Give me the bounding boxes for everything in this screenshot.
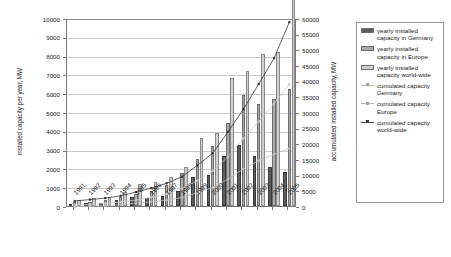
y-axis-left-tick-label: 4000: [18, 128, 60, 135]
line-marker: [227, 178, 229, 180]
line-marker: [242, 137, 244, 139]
y-axis-left-tick-label: 10000: [18, 16, 60, 23]
legend-item[interactable]: cumulated capacity Germany: [360, 82, 440, 97]
line-marker: [74, 204, 76, 206]
line-marker: [196, 164, 198, 166]
y-axis-right-tickmark: [296, 207, 299, 208]
plot-area: [66, 19, 296, 207]
x-axis-tickmark: [272, 207, 273, 210]
x-axis-tickmark: [180, 207, 181, 210]
y-axis-left-tickmark: [63, 113, 66, 114]
y-axis-right-tickmark: [296, 35, 299, 36]
line-marker: [74, 200, 76, 202]
line-marker: [227, 131, 229, 133]
x-axis-tickmark: [287, 207, 288, 210]
y-axis-left-tick-label: 8000: [18, 53, 60, 60]
chart-legend: yearly installed capacity in Germanyyear…: [356, 22, 444, 203]
y-axis-left-tick-label: 9000: [18, 34, 60, 41]
line-marker: [242, 168, 244, 170]
legend-item-label: cumulated capacity Germany: [377, 82, 440, 97]
legend-item-label: yearly installed capacity in Germany: [377, 27, 440, 42]
line-marker: [104, 205, 106, 207]
y-axis-left-tick-label: 7000: [18, 72, 60, 79]
line-series: [75, 22, 290, 201]
legend-item[interactable]: cumulated capacity world-wide: [360, 119, 440, 134]
y-axis-right-tickmark: [296, 176, 299, 177]
legend-line-icon: [361, 83, 374, 88]
x-axis-tickmark: [165, 207, 166, 210]
y-axis-right-tick-label: 50000: [302, 47, 319, 54]
legend-item[interactable]: yearly installed capacity in Germany: [360, 27, 440, 42]
line-marker: [196, 180, 198, 182]
y-axis-right-tickmark: [296, 113, 299, 114]
legend-item-label: yearly installed capacity in Europe: [377, 45, 440, 60]
x-axis-tickmark: [103, 207, 104, 210]
line-marker: [273, 153, 275, 155]
line-marker: [181, 197, 183, 199]
line-marker: [89, 199, 91, 201]
y-axis-right-tickmark: [296, 50, 299, 51]
y-axis-left-tick-label: 2000: [18, 166, 60, 173]
line-marker: [120, 201, 122, 203]
y-axis-left-tickmark: [63, 19, 66, 20]
line-marker: [212, 152, 214, 154]
line-marker: [120, 204, 122, 206]
legend-swatch-icon: [361, 46, 374, 51]
x-axis-tickmark: [119, 207, 120, 210]
y-axis-right-tickmark: [296, 82, 299, 83]
y-axis-right-tick-label: 55000: [302, 31, 319, 38]
line-marker: [166, 199, 168, 201]
y-axis-left-tickmark: [63, 207, 66, 208]
y-axis-left-tickmark: [63, 188, 66, 189]
y-axis-left-tickmark: [63, 94, 66, 95]
y-axis-right-tickmark: [296, 144, 299, 145]
y-axis-right-tick-label: 10000: [302, 172, 319, 179]
legend-item[interactable]: cumulated capacity Europe: [360, 100, 440, 115]
legend-line-icon: [361, 101, 374, 106]
y-axis-right-tick-label: 30000: [302, 110, 319, 117]
line-marker: [104, 197, 106, 199]
chart-figure: installed capacity per year, MW accumula…: [0, 0, 451, 257]
y-axis-right-tick-label: 15000: [302, 157, 319, 164]
line-series-group: [67, 19, 297, 207]
x-axis-tickmark: [195, 207, 196, 210]
line-marker: [273, 103, 275, 105]
y-axis-left-tickmark: [63, 169, 66, 170]
line-marker: [288, 148, 290, 150]
y-axis-left-tickmark: [63, 75, 66, 76]
y-axis-left-tick-label: 0: [18, 204, 60, 211]
legend-item-label: cumulated capacity Europe: [377, 100, 440, 115]
line-marker: [258, 83, 260, 85]
line-marker: [150, 201, 152, 203]
x-axis-tickmark: [73, 207, 74, 210]
x-axis-tickmark: [226, 207, 227, 210]
y-axis-right-tick-label: 20000: [302, 141, 319, 148]
line-marker: [227, 156, 229, 158]
line-marker: [258, 160, 260, 162]
line-marker: [135, 199, 137, 201]
legend-item-label: yearly installed capacity world-wide: [377, 64, 440, 79]
legend-item[interactable]: yearly installed capacity world-wide: [360, 64, 440, 79]
line-marker: [150, 196, 152, 198]
y-axis-left-tickmark: [63, 132, 66, 133]
y-axis-right-tickmark: [296, 66, 299, 67]
legend-swatch-icon: [361, 65, 374, 70]
line-marker: [273, 57, 275, 59]
x-axis-tickmark: [241, 207, 242, 210]
y-axis-right-tick-label: 25000: [302, 125, 319, 132]
x-axis-tickmark: [149, 207, 150, 210]
line-marker: [166, 182, 168, 184]
y-axis-right-tick-label: 45000: [302, 63, 319, 70]
x-axis-tickmark: [211, 207, 212, 210]
line-marker: [288, 83, 290, 85]
y-axis-right-tick-label: 35000: [302, 94, 319, 101]
legend-item[interactable]: yearly installed capacity in Europe: [360, 45, 440, 60]
y-axis-left-tickmark: [63, 57, 66, 58]
x-axis-tickmark: [88, 207, 89, 210]
y-axis-left-tick-label: 3000: [18, 147, 60, 154]
y-axis-left-tickmark: [63, 151, 66, 152]
x-axis-tickmark: [257, 207, 258, 210]
legend-line-icon: [361, 120, 374, 125]
y-axis-left-tickmark: [63, 38, 66, 39]
y-axis-right-tick-label: 60000: [302, 16, 319, 23]
